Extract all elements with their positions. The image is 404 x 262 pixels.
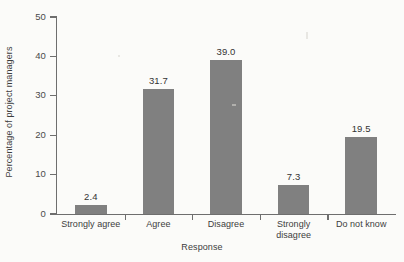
y-axis-tick-label: 50 (6, 11, 46, 22)
bar (278, 185, 310, 214)
y-axis-tick-mark (50, 56, 57, 57)
bar (75, 205, 107, 214)
y-axis-tick-label: 40 (6, 50, 46, 61)
bar (210, 60, 242, 214)
x-axis-category-label-line: Disagree (192, 219, 260, 230)
y-axis-tick-label: 20 (6, 129, 46, 140)
scan-speck (306, 32, 308, 39)
y-axis-tick-mark (50, 135, 57, 136)
x-axis-category-label: Do not know (327, 219, 395, 230)
y-axis-tick-label: 30 (6, 89, 46, 100)
bar-value-label: 7.3 (264, 171, 324, 182)
x-axis-category-label-line: Agree (125, 219, 193, 230)
y-axis-tick-mark (50, 16, 57, 17)
y-axis-tick-label: 0 (6, 208, 46, 219)
x-axis-category-label: Disagree (192, 219, 260, 230)
x-axis-category-label-line: disagree (260, 230, 328, 241)
x-axis-category-label: Strongly agree (57, 219, 125, 230)
chart-figure: Percentage of project managers 010203040… (0, 0, 404, 262)
bar-value-label: 19.5 (331, 123, 391, 134)
x-axis-category-label-line: Strongly (260, 219, 328, 230)
x-axis-category-label: Agree (125, 219, 193, 230)
bar-value-label: 31.7 (128, 75, 188, 86)
bar-value-label: 2.4 (61, 191, 121, 202)
scan-speck (232, 104, 236, 106)
y-axis-tick-mark (50, 174, 57, 175)
y-axis-tick-mark (50, 95, 57, 96)
y-axis-tick-label: 10 (6, 168, 46, 179)
bar-value-label: 39.0 (196, 46, 256, 57)
x-axis-title: Response (0, 242, 404, 252)
x-axis-category-label-line: Do not know (327, 219, 395, 230)
y-axis-tick-mark (50, 213, 57, 214)
scan-speck (118, 55, 120, 57)
x-axis-category-label-line: Strongly agree (57, 219, 125, 230)
x-axis-category-label: Stronglydisagree (260, 219, 328, 240)
bar (345, 137, 377, 214)
bar (143, 89, 175, 214)
